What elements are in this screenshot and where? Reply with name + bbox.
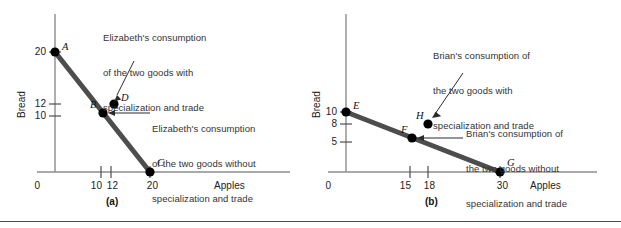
data-point-a bbox=[50, 47, 59, 56]
panel-caption-a: (a) bbox=[106, 196, 118, 207]
y-tick-label-10-a: 10 bbox=[22, 110, 46, 122]
figure-bottom-rule bbox=[0, 221, 621, 222]
annotation-line: Elizabeth's consumption bbox=[103, 32, 206, 44]
data-point-h bbox=[423, 119, 432, 128]
point-label-b: B bbox=[90, 99, 96, 111]
annotation-line: Elizabeth's consumption bbox=[152, 123, 256, 135]
annotation-line: specialization and trade bbox=[152, 193, 256, 205]
y-tick-label-5-b: 5 bbox=[315, 136, 337, 148]
annotation-line: the two goods with bbox=[433, 85, 534, 97]
annotation-line: of the two goods without bbox=[152, 158, 256, 170]
point-label-f: F bbox=[401, 124, 407, 136]
data-point-e bbox=[341, 107, 350, 116]
point-label-h: H bbox=[416, 110, 424, 122]
data-point-f bbox=[407, 133, 416, 142]
annotation-line: Brian's consumption of bbox=[466, 128, 567, 140]
x-tick-label-18-b: 18 bbox=[421, 180, 435, 192]
chart-panel-a: Bread 20 12 10 0 10 12 20 Apples A B C D… bbox=[0, 0, 310, 212]
y-tick-label-10-b: 10 bbox=[315, 106, 337, 118]
y-tick-label-8-b: 8 bbox=[315, 118, 337, 130]
x-tick-label-12-a: 12 bbox=[104, 180, 118, 192]
point-label-a: A bbox=[62, 41, 68, 53]
annotation-line: of the two goods with bbox=[103, 67, 206, 79]
y-tick-label-20-a: 20 bbox=[22, 46, 46, 58]
annotation-line: specialization and trade bbox=[466, 198, 567, 210]
annotation-a-without-trade: Elizabeth's consumption of the two goods… bbox=[152, 100, 256, 228]
annotation-line: the two goods without bbox=[466, 163, 567, 175]
x-tick-label-15-b: 15 bbox=[397, 180, 411, 192]
y-tick-label-12-a: 12 bbox=[22, 98, 46, 110]
figure-container: Bread 20 12 10 0 10 12 20 Apples A B C D… bbox=[0, 0, 621, 228]
chart-panel-b: Bread 10 8 5 0 15 18 30 Apples E F G H B… bbox=[311, 0, 621, 212]
panel-caption-b: (b) bbox=[425, 196, 438, 207]
annotation-line: Brian's consumption of bbox=[433, 50, 534, 62]
x-tick-label-10-a: 10 bbox=[88, 180, 102, 192]
origin-label-a: 0 bbox=[28, 180, 40, 192]
point-label-e: E bbox=[353, 100, 359, 112]
annotation-b-without-trade: Brian's consumption of the two goods wit… bbox=[466, 105, 567, 228]
origin-label-b: 0 bbox=[319, 180, 331, 192]
